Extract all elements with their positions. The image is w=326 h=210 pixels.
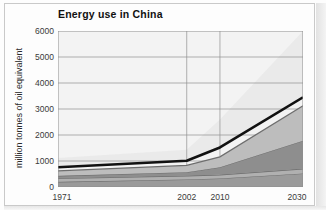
x-tick-label: 2010 <box>210 192 229 202</box>
y-tick-label: 0 <box>20 182 54 192</box>
y-tick-label: 5000 <box>20 52 54 62</box>
y-tick-label: 1000 <box>20 156 54 166</box>
plot-area <box>58 31 303 187</box>
page-edge-shadow-right <box>316 3 326 210</box>
y-tick-label: 3000 <box>20 104 54 114</box>
chart-svg <box>58 31 303 187</box>
x-tick-label: 1971 <box>53 192 72 202</box>
x-tick-label: 2030 <box>288 192 307 202</box>
x-tick-label: 2002 <box>177 192 196 202</box>
y-tick-label: 4000 <box>20 78 54 88</box>
y-axis-tick-labels: 0100020003000400050006000 <box>18 0 54 210</box>
y-tick-label: 6000 <box>20 26 54 36</box>
chart-page: Energy use in China million tonnes of oi… <box>0 0 326 210</box>
page-title: Energy use in China <box>58 8 258 20</box>
y-tick-label: 2000 <box>20 130 54 140</box>
